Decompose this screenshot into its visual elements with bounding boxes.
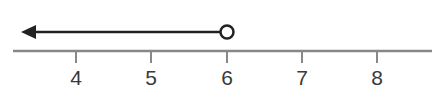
- solution-ray: [21, 25, 234, 39]
- number-line-diagram: 4 5 6 7 8: [0, 0, 441, 93]
- tick-label-4: 4: [70, 66, 82, 89]
- tick-label-6: 6: [221, 66, 233, 89]
- tick-label-7: 7: [296, 66, 308, 89]
- axis: [13, 51, 432, 63]
- tick-label-8: 8: [371, 66, 383, 89]
- open-circle-endpoint: [221, 26, 234, 39]
- tick-labels: 4 5 6 7 8: [70, 66, 383, 89]
- tick-label-5: 5: [145, 66, 157, 89]
- left-arrow-icon: [21, 25, 36, 39]
